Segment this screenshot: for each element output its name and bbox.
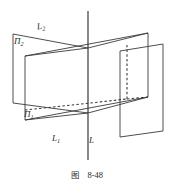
label-plane-pi2: Π2 (14, 37, 24, 46)
figure-caption: 图8-48 (0, 168, 174, 180)
band-top-edge (25, 33, 148, 56)
band-bottom-edge (25, 97, 148, 120)
label-line-L1: L1 (52, 134, 60, 143)
hidden-edge-bottom-rear (25, 99, 127, 110)
caption-prefix: 图 (71, 170, 81, 180)
right-plane-bottom-edge (120, 131, 163, 137)
geometry-figure (0, 0, 174, 189)
upper-right-edge-from-axis (88, 33, 148, 48)
label-axis-L: L (89, 136, 94, 145)
line-L2-segment (25, 48, 88, 56)
caption-number: 8-48 (87, 170, 103, 180)
label-plane-pi1: Π1 (24, 110, 34, 119)
label-line-L2: L2 (36, 22, 45, 32)
figure-page: L2 Π2 Π1 L1 L 图8-48 (0, 0, 174, 189)
lower-right-edge-from-axis (88, 97, 148, 113)
